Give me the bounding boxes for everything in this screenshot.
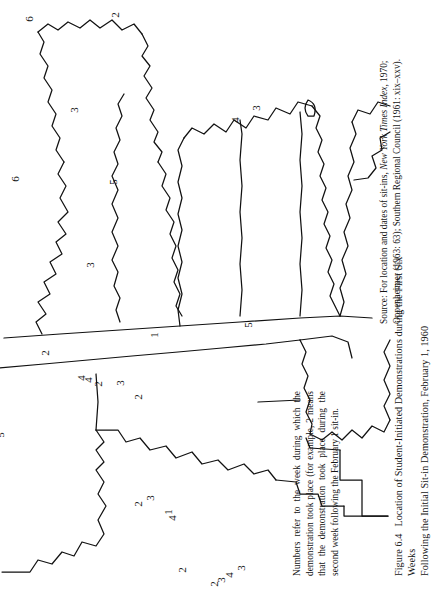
- page-inner: 343221432123244555544426355326344465666 …: [0, 0, 434, 590]
- week-number-labels: 343221432123244555544426355326344465666: [0, 0, 262, 587]
- week-number: 2: [176, 567, 188, 573]
- week-number: 4: [229, 117, 241, 123]
- week-number: 2: [132, 501, 144, 507]
- rotated-page: 343221432123244555544426355326344465666 …: [0, 0, 434, 590]
- week-number: 4: [166, 515, 178, 521]
- week-number: 3: [68, 107, 80, 113]
- week-number: 3: [144, 495, 156, 501]
- figure-number: Figure 6.4: [393, 534, 404, 576]
- week-number: 6: [23, 16, 35, 22]
- week-number: 4: [75, 375, 87, 381]
- figure-title-line2: Following the Initial Sit-in Demonstrati…: [419, 326, 430, 576]
- week-number: 2: [208, 581, 220, 587]
- figure-source: Source: For location and dates of sit-in…: [378, 8, 403, 324]
- week-number: 5: [0, 432, 6, 438]
- week-number: 1: [162, 509, 174, 515]
- week-number: 2: [39, 350, 51, 356]
- week-number: 5: [242, 322, 254, 328]
- week-number: 6: [9, 176, 21, 182]
- figure-note: Numbers refer to the week during which t…: [291, 391, 341, 576]
- week-number: 3: [114, 380, 126, 386]
- source-prefix: Source: For location and dates of sit-in…: [379, 170, 389, 324]
- week-number: 2: [132, 394, 144, 400]
- week-number: 2: [109, 12, 121, 18]
- week-number: 1: [148, 332, 160, 338]
- week-number: 5: [107, 179, 119, 185]
- source-italic-title: New York Times Index: [379, 87, 389, 170]
- week-number: 3: [235, 565, 247, 571]
- week-number: 3: [84, 262, 96, 268]
- week-number: 3: [250, 105, 262, 111]
